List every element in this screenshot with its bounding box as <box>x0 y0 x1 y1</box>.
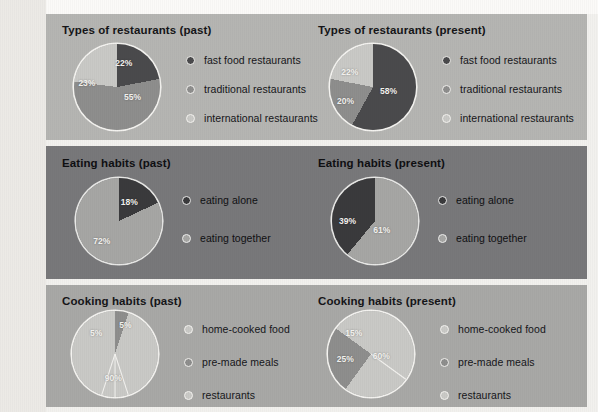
chart-cooking-past: Cooking habits (past) 5% 5% 90% home-coo <box>46 285 302 407</box>
legend-item[interactable]: traditional restaurants <box>186 83 318 95</box>
pie-chart: 15% 25% 60% <box>328 311 414 397</box>
legend-item[interactable]: restaurants <box>184 389 290 401</box>
legend-item[interactable]: pre-made meals <box>440 356 546 368</box>
chart-cooking-present: Cooking habits (present) 15% 25% 60% hom… <box>302 285 587 407</box>
legend-item[interactable]: eating alone <box>182 194 271 206</box>
legend-bullet-icon <box>186 114 195 123</box>
chart-title: Eating habits (past) <box>62 157 171 169</box>
chart-title: Types of restaurants (present) <box>318 24 486 36</box>
pie-wrap: 22% 55% 23% <box>74 44 160 130</box>
legend-item[interactable]: home-cooked food <box>440 323 546 335</box>
slice-label: 18% <box>121 197 138 207</box>
legend-item[interactable]: international restaurants <box>442 112 574 124</box>
slice-label: 23% <box>78 78 95 88</box>
chart-title: Cooking habits (present) <box>318 295 456 307</box>
legend-item[interactable]: eating alone <box>438 194 527 206</box>
slice-label: 61% <box>373 225 390 235</box>
infographic-page: Types of restaurants (past) 22% 55% 23% … <box>0 0 598 412</box>
legend-label: fast food restaurants <box>460 54 557 66</box>
chart-types-past: Types of restaurants (past) 22% 55% 23% … <box>46 14 302 140</box>
legend-item[interactable]: eating together <box>438 232 527 244</box>
pie-chart: 18% 72% <box>76 178 162 264</box>
legend: fast food restaurants traditional restau… <box>186 54 318 124</box>
legend-item[interactable]: eating together <box>182 232 271 244</box>
legend-label: pre-made meals <box>458 356 535 368</box>
pie-chart: 5% 5% 90% <box>72 311 158 397</box>
legend-label: pre-made meals <box>202 356 279 368</box>
legend-label: international restaurants <box>204 112 318 124</box>
legend: eating alone eating together <box>182 194 271 244</box>
legend-bullet-icon <box>440 325 449 334</box>
slice-label: 39% <box>339 216 356 226</box>
legend: eating alone eating together <box>438 194 527 244</box>
legend-bullet-icon <box>442 114 451 123</box>
slice-label: 15% <box>345 328 362 338</box>
pie-wrap: 39% 61% <box>332 178 418 264</box>
legend-bullet-icon <box>182 196 191 205</box>
legend-label: eating alone <box>200 194 258 206</box>
chart-eating-past: Eating habits (past) 18% 72% eating alon… <box>46 146 302 279</box>
chart-title: Eating habits (present) <box>318 157 445 169</box>
slice-label: 58% <box>380 86 397 96</box>
page-top-band <box>46 0 598 14</box>
slice-label: 5% <box>119 320 131 330</box>
legend-bullet-icon <box>184 325 193 334</box>
pie-wrap: 58% 20% 22% <box>330 44 416 130</box>
legend-label: eating alone <box>456 194 514 206</box>
legend-item[interactable]: traditional restaurants <box>442 83 574 95</box>
chart-types-present: Types of restaurants (present) 58% 20% 2… <box>302 14 587 140</box>
page-left-margin <box>0 0 46 412</box>
legend-bullet-icon <box>440 358 449 367</box>
legend-label: restaurants <box>202 389 255 401</box>
legend-label: traditional restaurants <box>460 83 562 95</box>
legend-item[interactable]: international restaurants <box>186 112 318 124</box>
pie-wrap: 18% 72% <box>76 178 162 264</box>
legend-label: home-cooked food <box>458 323 546 335</box>
legend-item[interactable]: home-cooked food <box>184 323 290 335</box>
panel-eating-habits: Eating habits (past) 18% 72% eating alon… <box>46 146 587 279</box>
slice-label: 25% <box>337 354 354 364</box>
slice-label: 90% <box>105 373 122 383</box>
legend-label: traditional restaurants <box>204 83 306 95</box>
slice-label: 22% <box>115 58 132 68</box>
legend-bullet-icon <box>438 234 447 243</box>
panel-cooking-habits: Cooking habits (past) 5% 5% 90% home-coo <box>46 285 587 407</box>
legend-bullet-icon <box>184 358 193 367</box>
slice-label: 55% <box>124 92 141 102</box>
slice-label: 5% <box>90 328 102 338</box>
legend-bullet-icon <box>182 234 191 243</box>
legend: home-cooked food pre-made meals restaura… <box>184 323 290 401</box>
chart-title: Cooking habits (past) <box>62 295 182 307</box>
slice-label: 60% <box>373 351 390 361</box>
slice-label: 20% <box>337 96 354 106</box>
chart-title: Types of restaurants (past) <box>62 24 211 36</box>
panel-types-of-restaurants: Types of restaurants (past) 22% 55% 23% … <box>46 14 587 140</box>
legend-item[interactable]: fast food restaurants <box>186 54 318 66</box>
legend-label: international restaurants <box>460 112 574 124</box>
legend: fast food restaurants traditional restau… <box>442 54 574 124</box>
slice-label: 22% <box>341 67 358 77</box>
pie-wrap: 15% 25% 60% <box>328 311 414 397</box>
legend-bullet-icon <box>440 391 449 400</box>
legend-item[interactable]: restaurants <box>440 389 546 401</box>
legend-label: restaurants <box>458 389 511 401</box>
pie-chart: 58% 20% 22% <box>330 44 416 130</box>
legend-bullet-icon <box>186 56 195 65</box>
legend-bullet-icon <box>184 391 193 400</box>
legend-bullet-icon <box>442 56 451 65</box>
legend-bullet-icon <box>442 85 451 94</box>
legend-label: home-cooked food <box>202 323 290 335</box>
legend-item[interactable]: pre-made meals <box>184 356 290 368</box>
legend-label: eating together <box>200 232 271 244</box>
pie-chart: 22% 55% 23% <box>74 44 160 130</box>
legend-label: eating together <box>456 232 527 244</box>
legend-item[interactable]: fast food restaurants <box>442 54 574 66</box>
pie-chart: 39% 61% <box>332 178 418 264</box>
pie-wrap: 5% 5% 90% <box>72 311 158 397</box>
chart-eating-present: Eating habits (present) 39% 61% eating a… <box>302 146 587 279</box>
legend: home-cooked food pre-made meals restaura… <box>440 323 546 401</box>
legend-bullet-icon <box>438 196 447 205</box>
legend-label: fast food restaurants <box>204 54 301 66</box>
slice-label: 72% <box>93 236 110 246</box>
legend-bullet-icon <box>186 85 195 94</box>
